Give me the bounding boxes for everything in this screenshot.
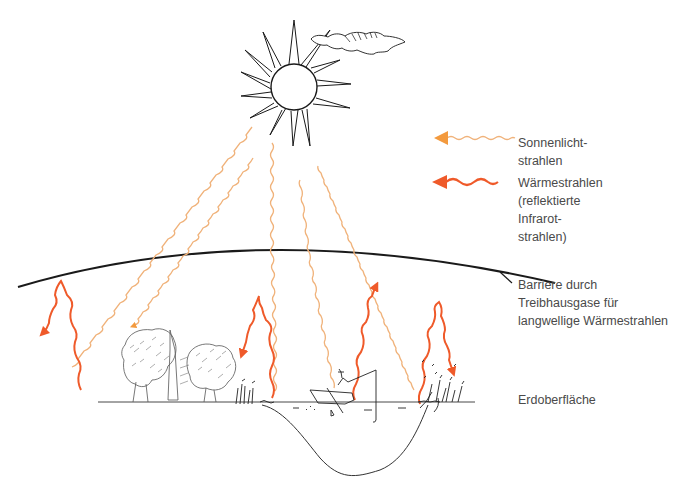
- legend-sunlight-label: Sonnenlicht- strahlen: [518, 134, 588, 170]
- legend-sunlight-icon: [434, 131, 515, 145]
- trees-icon: [122, 329, 236, 402]
- lake-basin: [262, 405, 428, 476]
- rowing-boat-icon: [293, 369, 406, 422]
- legend-heat-label: Wärmestrahlen (reflektierte Infrarot- st…: [518, 174, 603, 246]
- barrier-line-2: Treibhausgase für: [518, 294, 668, 312]
- legend-sunlight-line-2: strahlen: [518, 152, 588, 170]
- greenhouse-effect-diagram: [0, 0, 687, 496]
- legend-sunlight-line-1: Sonnenlicht-: [518, 134, 588, 152]
- legend-heat-line-4: strahlen): [518, 228, 603, 246]
- barrier-line-1: Barriere durch: [518, 276, 668, 294]
- reeds-icon-right: [418, 360, 464, 412]
- reeds-icon: [236, 379, 274, 404]
- legend-heat-line-1: Wärmestrahlen: [518, 174, 603, 192]
- barrier-label: Barriere durch Treibhausgase für langwel…: [518, 276, 668, 330]
- surface-line-1: Erdoberfläche: [518, 391, 596, 409]
- barrier-line-3: langwellige Wärmestrahlen: [518, 312, 668, 330]
- legend-heat-line-3: Infrarot-: [518, 210, 603, 228]
- atmosphere-barrier-line: [18, 250, 555, 287]
- legend-heat-line-2: (reflektierte: [518, 192, 603, 210]
- heat-rays: [43, 281, 453, 404]
- surface-label: Erdoberfläche: [518, 391, 596, 409]
- legend-heat-icon: [432, 175, 498, 189]
